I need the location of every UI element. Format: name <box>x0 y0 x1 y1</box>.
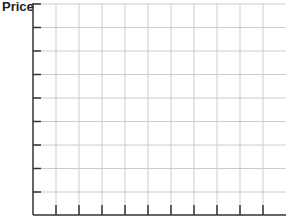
empty-price-chart <box>0 0 286 221</box>
grid-lines <box>33 4 286 215</box>
